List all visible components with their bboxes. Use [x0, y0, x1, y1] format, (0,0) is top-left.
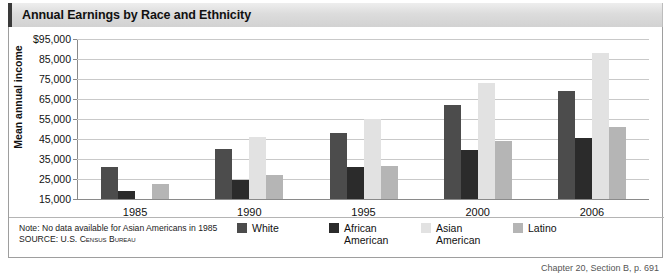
legend-item: Asian American — [421, 222, 513, 246]
page-title: Annual Earnings by Race and Ethnicity — [22, 8, 251, 22]
bar — [232, 180, 249, 199]
y-axis-tick-mark — [73, 119, 77, 120]
figure-annual-earnings: Annual Earnings by Race and Ethnicity Me… — [0, 0, 669, 274]
y-axis-tick-mark — [73, 199, 77, 200]
y-axis-tick-label: 85,000 — [39, 53, 71, 65]
bar-set — [215, 39, 283, 199]
y-axis-tick-label: 25,000 — [39, 173, 71, 185]
bar — [495, 141, 512, 199]
y-axis-tick-mark — [73, 59, 77, 60]
bar-set — [330, 39, 398, 199]
plot-area: Mean annual income 15,00025,00035,00045,… — [9, 27, 664, 217]
bar-group: 1985 — [78, 39, 192, 199]
legend-label: African American — [344, 222, 406, 246]
legend-swatch — [329, 223, 339, 233]
chart-legend: WhiteAfrican AmericanAsian AmericanLatin… — [237, 222, 605, 246]
bar — [461, 150, 478, 199]
bar — [364, 119, 381, 199]
bar — [609, 127, 626, 199]
y-axis-tick-mark — [73, 179, 77, 180]
bar-group: 2006 — [535, 39, 649, 199]
legend-label: Asian American — [436, 222, 498, 246]
y-axis-tick-label: 35,000 — [39, 153, 71, 165]
note-text: Note: No data available for Asian Americ… — [19, 223, 217, 234]
y-axis-tick-label: 65,000 — [39, 93, 71, 105]
legend-swatch — [513, 223, 523, 233]
figure-title-bar: Annual Earnings by Race and Ethnicity — [8, 3, 663, 27]
bar — [444, 105, 461, 199]
bar — [330, 133, 347, 199]
bar — [575, 138, 592, 199]
y-axis-tick-label: 55,000 — [39, 113, 71, 125]
legend-item: Latino — [513, 222, 605, 246]
bar-group: 1990 — [192, 39, 306, 199]
legend-swatch — [237, 223, 247, 233]
y-axis-tick-mark — [73, 159, 77, 160]
bar-group: 1995 — [306, 39, 420, 199]
y-axis-tick-mark — [73, 99, 77, 100]
chart-panel: Mean annual income 15,00025,00035,00045,… — [8, 27, 663, 258]
y-axis-tick-label: 75,000 — [39, 73, 71, 85]
y-axis-tick-label: $95,000 — [33, 33, 71, 45]
y-axis-tick-mark — [73, 139, 77, 140]
chart-notes: Note: No data available for Asian Americ… — [19, 223, 217, 244]
bar — [347, 167, 364, 199]
bar-set — [444, 39, 512, 199]
bar-groups: 19851990199520002006 — [78, 39, 649, 199]
y-axis-tick-label: 15,000 — [39, 193, 71, 205]
chart-footer: Note: No data available for Asian Americ… — [9, 217, 664, 257]
bar-set — [101, 39, 169, 199]
legend-item: African American — [329, 222, 421, 246]
y-axis-title: Mean annual income — [12, 22, 24, 172]
y-axis-tick-label: 45,000 — [39, 133, 71, 145]
legend-swatch — [421, 223, 431, 233]
axis-area: 15,00025,00035,00045,00055,00065,00075,0… — [77, 39, 649, 199]
bar — [215, 149, 232, 199]
source-text: SOURCE: U.S. Census Bureau — [19, 234, 217, 245]
bar — [478, 83, 495, 199]
bar-set — [558, 39, 626, 199]
bar — [152, 184, 169, 199]
bar-group: 2000 — [421, 39, 535, 199]
legend-label: White — [252, 222, 279, 234]
gridline: 15,000 — [77, 199, 649, 200]
bar — [381, 166, 398, 199]
bar — [249, 137, 266, 199]
y-axis-tick-mark — [73, 79, 77, 80]
figure-caption: Chapter 20, Section B, p. 691 — [541, 263, 659, 273]
bar — [118, 191, 135, 199]
legend-label: Latino — [528, 222, 557, 234]
bar — [592, 53, 609, 199]
bar — [101, 167, 118, 199]
y-axis-tick-mark — [73, 39, 77, 40]
legend-item: White — [237, 222, 329, 246]
bar — [266, 175, 283, 199]
bar — [558, 91, 575, 199]
